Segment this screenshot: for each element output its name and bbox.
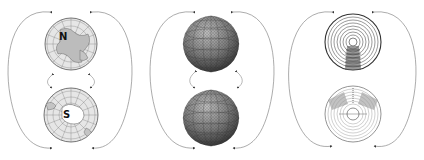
panel-shaded-spheres <box>150 12 274 148</box>
upper-concentric-disk <box>325 14 381 70</box>
panel-concentric-disks <box>289 12 416 147</box>
cycle-arrow-right <box>374 12 416 147</box>
panel-map-globes: N S <box>8 12 132 148</box>
lower-sphere <box>183 90 239 146</box>
north-pole-globe: N <box>45 18 97 70</box>
swap-arrow-left <box>190 72 195 88</box>
cycle-arrow-left <box>289 12 332 147</box>
south-label: S <box>63 109 70 120</box>
cycle-arrow-right <box>92 12 132 148</box>
cycle-arrow-right <box>233 12 274 148</box>
swap-arrow-right <box>237 72 242 88</box>
diagram-canvas: N S <box>0 0 424 160</box>
cycle-arrow-left <box>8 12 52 148</box>
north-label: N <box>59 31 67 42</box>
swap-arrow-left <box>48 75 53 88</box>
south-pole-globe: S <box>44 88 98 142</box>
lower-concentric-disk <box>325 86 381 142</box>
swap-arrow-right <box>90 75 95 88</box>
upper-sphere <box>183 16 239 72</box>
